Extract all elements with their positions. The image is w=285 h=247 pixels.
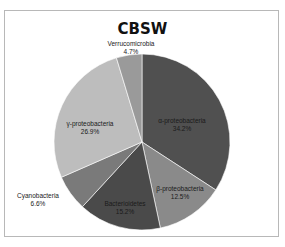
slice-label-bacterioidetes: Bacterioidetes15.2% (104, 200, 145, 216)
slice-label-cyanobacteria: Cyanobacteria6.6% (17, 192, 59, 208)
slice-label-alpha: α-proteobacteria34.2% (158, 117, 205, 133)
slice-label-verrucomicrobia: Verrucomicrobia4.7% (108, 40, 155, 56)
slice-label-beta: β-proteobacteria12.5% (156, 185, 203, 201)
slice-label-gamma: γ-proteobacteria26.9% (67, 120, 114, 136)
